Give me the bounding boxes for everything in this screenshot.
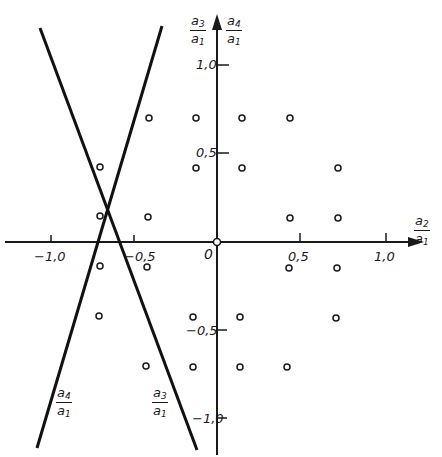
y-tick-label: 0,5 (196, 146, 217, 159)
x-tick-label: −1,0 (34, 250, 66, 263)
line-label-a4-a1: a4 a1 (56, 386, 72, 419)
y-tick-label: 1,0 (196, 58, 217, 71)
line-a4-a1 (37, 26, 162, 448)
y-tick-label: −0,5 (186, 324, 218, 337)
y-axis-arrow-icon (212, 14, 222, 30)
line-label-a3-a1: a3 a1 (152, 386, 168, 419)
origin-label: 0 (204, 247, 213, 261)
x-tick-label: 1,0 (374, 250, 395, 263)
y-axis-label-a3-a1: a3 a1 (190, 14, 206, 47)
x-tick-label: 0,5 (288, 250, 309, 263)
y-axis-label-a4-a1: a4 a1 (226, 14, 242, 47)
x-tick-label: −0,5 (124, 250, 156, 263)
y-tick-label: −1,0 (192, 412, 224, 425)
origin-point (214, 239, 221, 246)
x-axis-label-a2-a1: a2 a1 (414, 214, 430, 247)
